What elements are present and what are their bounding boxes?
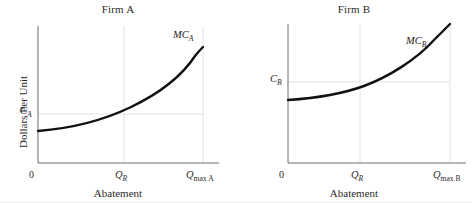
panel-a-plot: MCA CA 0 QR Qmax A [0,0,236,203]
panel-b-intercept-sub: B [277,78,282,87]
panel-b-xtick-qmax: Qmax B [433,169,461,183]
panel-b-xtick-qmax-sub: max B [441,174,461,183]
panel-b-curve-label-sub: B [422,40,427,49]
panel-a-xtick-qmax-sub: max A [194,174,215,183]
panel-a-origin-label: 0 [29,169,34,180]
panel-a-curve-label: MCA [172,29,194,43]
panel-b-xtick-qr-sub: R [358,174,364,183]
panel-b-mc-curve [288,24,450,100]
panel-b-intercept-label: CB [270,73,282,87]
panel-a-intercept-label: CA [20,105,32,119]
panel-a-xtick-qr: QR [115,169,128,183]
figure-bottom-rule [0,202,472,203]
panel-firm-a: Firm A Dollars Per Unit Abatement MCA CA… [0,0,236,203]
panel-b-plot: MCB CB 0 QR Qmax B [236,0,472,203]
panel-a-mc-curve [38,47,203,131]
panel-b-curve-label: MCB [405,35,427,49]
panel-firm-b: Firm B Dollars Per Unit Abatement MCB CB… [236,0,472,203]
panel-a-xtick-qmax: Qmax A [186,169,214,183]
panel-a-xtick-qr-sub: R [122,174,128,183]
panel-b-origin-label: 0 [279,169,284,180]
panel-a-curve-label-sub: A [188,34,194,43]
abatement-cost-figure: Firm A Dollars Per Unit Abatement MCA CA… [0,0,472,203]
panel-b-xtick-qr: QR [351,169,364,183]
panel-a-intercept-sub: A [26,110,32,119]
panel-a-curve-label-base: MC [172,29,190,40]
panel-b-curve-label-base: MC [405,35,423,46]
